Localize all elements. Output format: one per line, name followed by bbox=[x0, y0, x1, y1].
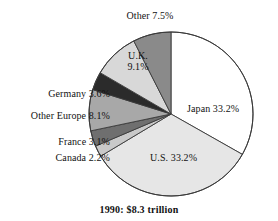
chart-caption: 1990: $8.3 trillion bbox=[0, 204, 278, 215]
slice-label-germany: Germany 3.6% bbox=[2, 88, 110, 99]
slice-label-uk: U.K. 9.1% bbox=[119, 50, 157, 72]
pie-chart-figure: Other 7.5% Germany 3.6% Other Europe 8.1… bbox=[0, 0, 278, 221]
slice-label-france: France 3.1% bbox=[2, 136, 110, 147]
slice-label-us: U.S. 33.2% bbox=[150, 152, 222, 163]
pie-slices-group bbox=[89, 32, 253, 196]
chart-area: Other 7.5% Germany 3.6% Other Europe 8.1… bbox=[0, 0, 278, 221]
slice-label-uk-line1: U.K. bbox=[119, 50, 157, 61]
slice-label-other: Other 7.5% bbox=[104, 10, 196, 21]
slice-label-canada: Canada 2.2% bbox=[2, 152, 110, 163]
slice-label-japan: Japan 33.2% bbox=[187, 103, 257, 114]
slice-label-other-europe: Other Europe 8.1% bbox=[2, 110, 110, 121]
slice-label-uk-line2: 9.1% bbox=[119, 61, 157, 72]
